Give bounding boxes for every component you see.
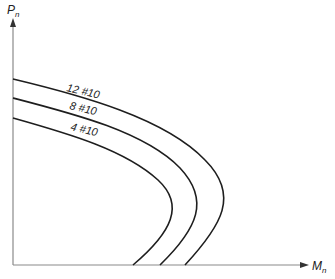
curves [13,79,224,265]
interaction-diagram: Pn Mn 12 #10 8 #10 4 #10 [0,0,335,279]
x-axis: Mn [13,259,327,275]
x-axis-arrow-icon [300,262,309,268]
curve-labels: 12 #10 8 #10 4 #10 [66,81,102,138]
x-axis-label: Mn [312,259,327,275]
y-axis-arrow-icon [10,18,16,27]
curve-8-bars [13,98,197,265]
y-axis-label: Pn [7,3,20,19]
y-axis: Pn [7,3,20,265]
curve-4-bars [13,118,172,265]
